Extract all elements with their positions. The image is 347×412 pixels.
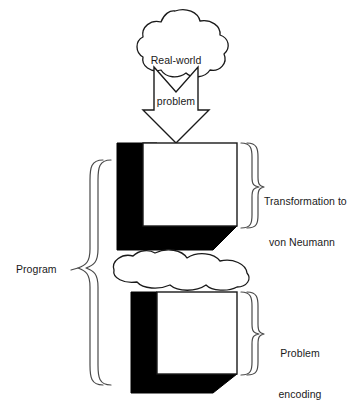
- block-lower-shape: [131, 292, 237, 393]
- brace-problem-encoding: [241, 292, 264, 375]
- program-label: Program: [16, 263, 70, 277]
- block-upper-shape: [117, 143, 237, 250]
- problem-encoding-label-line2: encoding: [269, 388, 331, 402]
- transformation-label: Transformation to von Neumann: [264, 168, 340, 276]
- problem-encoding-label: Problem encoding: [269, 320, 331, 412]
- cloud-middle-shape: [113, 250, 248, 290]
- transformation-label-line2: von Neumann: [264, 236, 340, 250]
- cloud-top-label-line1: Real-world: [141, 54, 211, 68]
- cloud-top-label: Real-world problem: [141, 27, 211, 135]
- brace-program: [71, 160, 111, 385]
- transformation-label-line1: Transformation to: [264, 195, 340, 209]
- cloud-top-label-line2: problem: [141, 95, 211, 109]
- problem-encoding-label-line1: Problem: [269, 347, 331, 361]
- brace-transformation: [241, 143, 264, 228]
